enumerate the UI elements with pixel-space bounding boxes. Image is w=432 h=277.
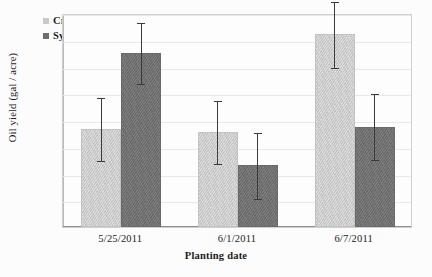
x-tick-label: 5/25/2011	[62, 233, 179, 244]
error-bar	[141, 23, 142, 85]
bar-syngenta-7120	[355, 127, 395, 227]
error-bar	[334, 2, 335, 69]
error-bar	[217, 101, 218, 165]
bar-group	[180, 13, 297, 227]
bar-group	[296, 13, 413, 227]
legend-swatch-icon-croplan-306	[43, 18, 49, 24]
bar-syngenta-7120	[238, 165, 278, 227]
bar-croplan-306	[81, 129, 121, 227]
bar-syngenta-7120	[121, 53, 161, 227]
x-tick-label: 6/7/2011	[295, 233, 412, 244]
x-tick-label: 6/1/2011	[179, 233, 296, 244]
error-bar	[374, 94, 375, 161]
plot-area	[62, 14, 412, 228]
legend-swatch-icon-syngenta-7120	[43, 33, 49, 39]
error-bar	[257, 133, 258, 200]
bar-croplan-306	[198, 132, 238, 227]
oil-yield-bar-chart: Croplan 306 Syngenta 7120 Oil yield (gal…	[0, 0, 432, 277]
y-axis-title: Oil yield (gal / acre)	[7, 0, 18, 198]
bar-croplan-306	[315, 34, 355, 227]
error-bar	[101, 98, 102, 162]
bar-group	[63, 13, 180, 227]
x-axis-title: Planting date	[0, 250, 432, 261]
